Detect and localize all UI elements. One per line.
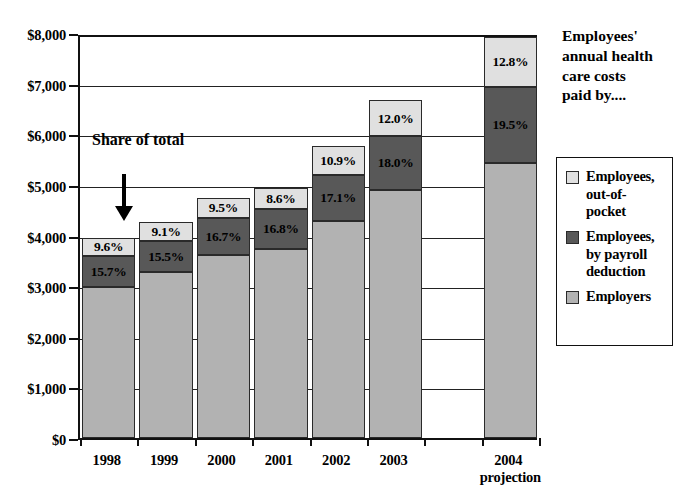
bar-segment[interactable]: 9.5% xyxy=(197,198,250,218)
legend-item-label: Employees, by payroll deduction xyxy=(586,228,654,281)
bar-segment-label: 9.6% xyxy=(94,240,123,254)
bar-segment[interactable]: 9.6% xyxy=(82,238,135,257)
x-tick-label: 2004 projection xyxy=(480,452,537,485)
bar-segment-label: 8.6% xyxy=(266,192,295,206)
bar-segment[interactable]: 17.1% xyxy=(312,175,365,221)
x-tick-mark xyxy=(80,438,82,446)
bar-segment-label: 19.5% xyxy=(492,118,528,132)
x-tick-mark xyxy=(195,438,197,446)
x-tick-label: 2002 xyxy=(308,452,365,469)
legend-item[interactable]: Employees, out-of- pocket xyxy=(566,168,664,221)
bar-segment-label: 12.0% xyxy=(378,112,414,126)
y-tick-mark xyxy=(69,439,78,441)
bar-segment[interactable]: 15.7% xyxy=(82,256,135,286)
bar-segment[interactable]: 12.8% xyxy=(484,37,537,87)
stacked-bar[interactable]: 15.5%9.1% xyxy=(139,222,192,438)
y-tick-label: $0 xyxy=(0,433,66,448)
gridline xyxy=(80,187,537,188)
legend-item[interactable]: Employers xyxy=(566,288,664,306)
bar-segment[interactable]: 18.0% xyxy=(369,136,422,190)
legend-swatch xyxy=(566,231,579,244)
bar-segment-label: 12.8% xyxy=(492,55,528,69)
stacked-bar[interactable]: 17.1%10.9% xyxy=(312,146,365,438)
bar-segment[interactable]: 15.5% xyxy=(139,241,192,272)
bar-segment-label: 9.5% xyxy=(209,201,238,215)
stacked-bar[interactable]: 18.0%12.0% xyxy=(369,100,422,438)
share-of-total-annotation: Share of total xyxy=(92,131,184,149)
y-tick-label: $1,000 xyxy=(0,382,66,397)
bar-segment-label: 9.1% xyxy=(151,225,180,239)
legend-item[interactable]: Employees, by payroll deduction xyxy=(566,228,664,281)
bar-segment-label: 15.5% xyxy=(148,250,184,264)
y-tick-label: $8,000 xyxy=(0,28,66,43)
plot-area: 15.7%9.6%15.5%9.1%16.7%9.5%16.8%8.6%17.1… xyxy=(78,35,537,440)
x-tick-label: 2001 xyxy=(250,452,307,469)
legend-title: Employees' annual health care costs paid… xyxy=(562,26,653,105)
y-tick-label: $3,000 xyxy=(0,281,66,296)
x-tick-mark xyxy=(539,438,541,446)
bar-segment-label: 17.1% xyxy=(320,191,356,205)
y-tick-mark xyxy=(69,34,78,36)
bar-segment[interactable] xyxy=(139,272,192,438)
bar-segment[interactable]: 9.1% xyxy=(139,222,192,240)
stacked-bar[interactable]: 16.8%8.6% xyxy=(254,188,307,438)
bar-segment[interactable] xyxy=(82,287,135,438)
legend-item-label: Employees, out-of- pocket xyxy=(586,168,654,221)
x-tick-mark xyxy=(424,438,426,446)
x-tick-label: 2003 xyxy=(365,452,422,469)
stacked-bar[interactable]: 15.7%9.6% xyxy=(82,238,135,438)
y-tick-label: $5,000 xyxy=(0,180,66,195)
bar-segment-label: 16.8% xyxy=(263,222,299,236)
bar-segment[interactable] xyxy=(312,221,365,438)
bar-segment[interactable] xyxy=(197,255,250,438)
bar-segment[interactable]: 16.8% xyxy=(254,209,307,249)
legend-item-label: Employers xyxy=(586,288,651,306)
bar-segment[interactable]: 8.6% xyxy=(254,188,307,208)
stacked-bar[interactable]: 19.5%12.8% xyxy=(484,37,537,438)
x-tick-label: 1999 xyxy=(135,452,192,469)
gridline xyxy=(80,86,537,87)
y-tick-label: $6,000 xyxy=(0,129,66,144)
bar-segment[interactable] xyxy=(484,163,537,438)
chart-root: $0$1,000$2,000$3,000$4,000$5,000$6,000$7… xyxy=(0,0,685,503)
bar-segment-label: 15.7% xyxy=(91,265,127,279)
y-tick-label: $4,000 xyxy=(0,230,66,245)
y-tick-label: $7,000 xyxy=(0,78,66,93)
bar-segment[interactable]: 16.7% xyxy=(197,218,250,255)
y-tick-mark xyxy=(69,287,78,289)
legend-swatch xyxy=(566,291,579,304)
x-tick-mark xyxy=(252,438,254,446)
x-tick-mark xyxy=(367,438,369,446)
bar-segment[interactable] xyxy=(254,249,307,438)
x-tick-label: 2000 xyxy=(193,452,250,469)
y-tick-mark xyxy=(69,85,78,87)
bar-segment-label: 16.7% xyxy=(206,230,242,244)
y-tick-label: $2,000 xyxy=(0,332,66,347)
y-tick-mark xyxy=(69,186,78,188)
bar-segment[interactable] xyxy=(369,190,422,438)
y-tick-mark xyxy=(69,338,78,340)
bar-segment[interactable]: 12.0% xyxy=(369,100,422,136)
y-tick-mark xyxy=(69,388,78,390)
y-tick-mark xyxy=(69,135,78,137)
bar-segment-label: 10.9% xyxy=(320,154,356,168)
x-tick-mark xyxy=(482,438,484,446)
y-tick-mark xyxy=(69,237,78,239)
bar-segment-label: 18.0% xyxy=(378,156,414,170)
gridline xyxy=(80,35,537,37)
x-tick-label: 1998 xyxy=(78,452,135,469)
x-tick-mark xyxy=(310,438,312,446)
bar-segment[interactable]: 10.9% xyxy=(312,146,365,175)
legend-swatch xyxy=(566,171,579,184)
legend-box: Employees, out-of- pocketEmployees, by p… xyxy=(556,157,673,346)
x-tick-mark xyxy=(137,438,139,446)
bar-segment[interactable]: 19.5% xyxy=(484,87,537,163)
stacked-bar[interactable]: 16.7%9.5% xyxy=(197,198,250,438)
